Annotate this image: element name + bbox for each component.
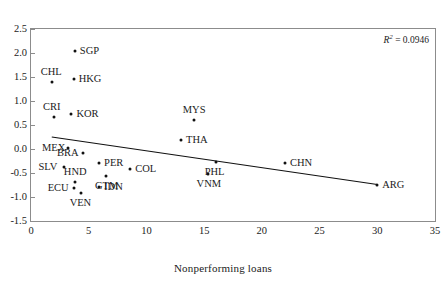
point-label-per: PER xyxy=(104,158,123,169)
y-tick-mark xyxy=(31,197,35,198)
scatter-chart-figure: SGPCHLHKGCRIKORMYSTHAMEXBRASLVPERCOLPHLC… xyxy=(0,0,446,283)
x-axis-title: Nonperforming loans xyxy=(0,262,446,274)
data-point-ecu xyxy=(72,186,75,189)
x-tick-label: 15 xyxy=(199,226,210,237)
data-point-ven xyxy=(79,192,82,195)
y-tick-label: 1.0 xyxy=(14,96,27,107)
y-tick-mark xyxy=(31,125,35,126)
x-tick-label: 5 xyxy=(86,226,91,237)
data-point-idn xyxy=(98,186,101,189)
point-label-bra: BRA xyxy=(57,148,79,159)
point-label-mys: MYS xyxy=(183,105,206,116)
point-label-kor: KOR xyxy=(76,109,98,120)
data-point-gtm xyxy=(105,175,108,178)
point-label-col: COL xyxy=(135,164,156,175)
y-tick-label: -1.5 xyxy=(10,216,27,227)
point-label-ecu: ECU xyxy=(48,183,69,194)
data-point-kor xyxy=(70,113,73,116)
point-label-idn: IDN xyxy=(104,182,123,193)
point-label-vnm: VNM xyxy=(197,179,222,190)
x-tick-label: 20 xyxy=(257,226,268,237)
r2-symbol: R2 xyxy=(383,35,392,45)
point-label-slv: SLV xyxy=(38,162,57,173)
point-label-ven: VEN xyxy=(70,198,92,209)
data-point-sgp xyxy=(73,49,76,52)
data-point-tha xyxy=(180,139,183,142)
y-tick-label: 1.5 xyxy=(14,72,27,83)
data-point-cri xyxy=(53,116,56,119)
y-tick-mark xyxy=(31,101,35,102)
data-point-chl xyxy=(50,80,53,83)
point-label-chn: CHN xyxy=(290,158,312,169)
y-tick-mark xyxy=(31,77,35,78)
data-point-bra xyxy=(81,151,84,154)
data-point-mys xyxy=(192,119,195,122)
point-label-chl: CHL xyxy=(41,67,62,78)
y-tick-label: -0.5 xyxy=(10,168,27,179)
y-tick-label: 2.0 xyxy=(14,48,27,59)
x-tick-label: 10 xyxy=(141,226,152,237)
data-point-per xyxy=(98,162,101,165)
point-label-tha: THA xyxy=(186,135,208,146)
x-tick-label: 0 xyxy=(28,226,33,237)
y-tick-label: 2.5 xyxy=(14,24,27,35)
x-tick-label: 35 xyxy=(430,226,441,237)
point-label-hkg: HKG xyxy=(79,74,102,85)
data-point-hnd xyxy=(73,180,76,183)
point-label-cri: CRI xyxy=(43,102,61,113)
y-tick-mark xyxy=(31,221,35,222)
y-tick-label: 0.0 xyxy=(14,144,27,155)
x-tick-label: 30 xyxy=(372,226,383,237)
point-label-sgp: SGP xyxy=(80,46,99,57)
x-tick-label: 25 xyxy=(314,226,325,237)
data-point-hkg xyxy=(72,78,75,81)
y-tick-mark xyxy=(31,173,35,174)
r2-value: = 0.0946 xyxy=(393,35,429,45)
r2-annotation: R2 = 0.0946 xyxy=(383,33,429,45)
point-label-arg: ARG xyxy=(382,180,404,191)
y-tick-mark xyxy=(31,53,35,54)
y-tick-mark xyxy=(31,149,35,150)
trendline-layer xyxy=(31,29,435,221)
plot-area: SGPCHLHKGCRIKORMYSTHAMEXBRASLVPERCOLPHLC… xyxy=(30,28,436,222)
data-point-arg xyxy=(376,184,379,187)
data-point-col xyxy=(129,168,132,171)
y-tick-mark xyxy=(31,29,35,30)
y-tick-label: 0.5 xyxy=(14,120,27,131)
data-point-chn xyxy=(283,162,286,165)
data-point-phl xyxy=(214,160,217,163)
point-label-hnd: HND xyxy=(64,167,87,178)
data-point-vnm xyxy=(206,172,209,175)
y-tick-label: -1.0 xyxy=(10,192,27,203)
